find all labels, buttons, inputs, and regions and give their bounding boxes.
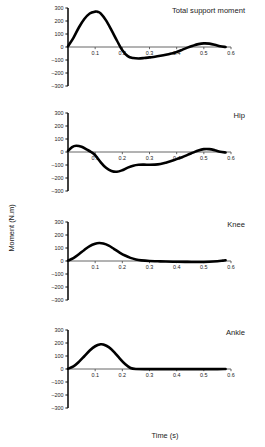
x-tick-label: 0.5 (200, 155, 208, 161)
panel-title: Total support moment (172, 6, 246, 15)
y-tick-label: 100 (55, 353, 64, 359)
y-tick-label: –200 (52, 284, 64, 290)
y-tick-label: –100 (52, 57, 64, 63)
y-tick-label: –200 (52, 392, 64, 398)
x-tick-label: 0.2 (119, 264, 127, 270)
y-tick-label: 300 (55, 327, 64, 333)
x-tick-label: 0.5 (200, 50, 208, 56)
y-tick-label: –300 (52, 297, 64, 303)
x-tick-label: 0.6 (227, 50, 235, 56)
y-tick-label: 0 (61, 44, 64, 50)
x-tick-label: 0.4 (173, 372, 181, 378)
y-axis-title: Moment (N.m) (7, 204, 16, 251)
y-tick-label: –100 (52, 271, 64, 277)
y-tick-label: –100 (52, 162, 64, 168)
x-tick-label: 0.5 (200, 372, 208, 378)
x-tick-label: 0.3 (146, 50, 154, 56)
panel-title: Hip (234, 111, 245, 120)
y-tick-label: 300 (55, 219, 64, 225)
y-tick-label: –100 (52, 379, 64, 385)
y-tick-label: 100 (55, 245, 64, 251)
x-tick-label: 0.1 (91, 264, 99, 270)
x-tick-label: 0.5 (200, 264, 208, 270)
y-tick-label: 200 (55, 18, 64, 24)
y-tick-label: 300 (55, 110, 64, 116)
moment-figure: 3002001000–100–200–3000.10.20.30.40.50.6… (0, 0, 265, 447)
y-tick-label: –300 (52, 188, 64, 194)
x-tick-label: 0.6 (227, 264, 235, 270)
y-tick-label: 0 (61, 149, 64, 155)
panel-title: Knee (227, 220, 245, 229)
x-tick-label: 0.1 (91, 50, 99, 56)
x-tick-label: 0.6 (227, 155, 235, 161)
x-tick-label: 0.3 (146, 264, 154, 270)
y-tick-label: –200 (52, 175, 64, 181)
moment-curve (68, 344, 226, 369)
y-tick-label: 300 (55, 5, 64, 11)
y-tick-label: 0 (61, 366, 64, 372)
y-tick-label: –200 (52, 70, 64, 76)
y-tick-label: 200 (55, 232, 64, 238)
y-tick-label: 100 (55, 136, 64, 142)
moment-curve (68, 243, 226, 262)
y-tick-label: 200 (55, 123, 64, 129)
x-tick-label: 0.3 (146, 155, 154, 161)
x-tick-label: 0.3 (146, 372, 154, 378)
y-tick-label: 100 (55, 31, 64, 37)
x-tick-label: 0.1 (91, 372, 99, 378)
chart-panel: 3002001000–100–200–3000.10.20.30.40.50.6… (52, 327, 246, 411)
x-tick-label: 0.6 (227, 372, 235, 378)
y-tick-label: –300 (52, 405, 64, 411)
y-tick-label: 0 (61, 258, 64, 264)
x-tick-label: 0.2 (119, 155, 127, 161)
x-tick-label: 0.2 (119, 372, 127, 378)
panel-title: Ankle (226, 328, 245, 337)
y-tick-label: 200 (55, 340, 64, 346)
x-axis-title: Time (s) (152, 431, 179, 440)
chart-panel: 3002001000–100–200–3000.10.20.30.40.50.6… (52, 110, 246, 194)
y-tick-label: –300 (52, 83, 64, 89)
chart-panel: 3002001000–100–200–3000.10.20.30.40.50.6… (52, 5, 246, 89)
x-tick-label: 0.4 (173, 264, 181, 270)
chart-panel: 3002001000–100–200–3000.10.20.30.40.50.6… (52, 219, 246, 303)
